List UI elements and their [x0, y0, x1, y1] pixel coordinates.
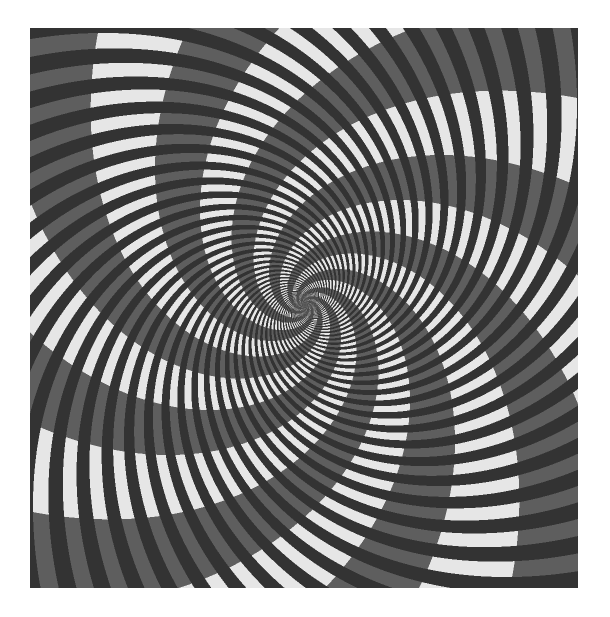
spiral-canvas	[30, 28, 578, 588]
spiral-illusion-image	[30, 28, 578, 588]
